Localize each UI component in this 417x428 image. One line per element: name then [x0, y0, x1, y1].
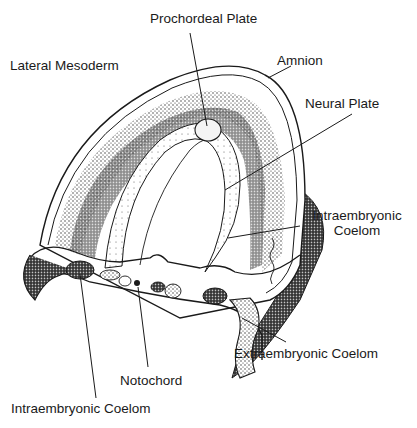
- somite-right-2: [165, 284, 181, 298]
- somite-left-2: [119, 276, 131, 286]
- label-intraembryonic-coelom-bottom: Intraembryonic Coelom: [11, 401, 151, 416]
- somite-right-1: [151, 282, 165, 292]
- label-amnion: Amnion: [277, 53, 323, 68]
- label-extraembryonic-coelom: Extraembryonic Coelom: [234, 346, 378, 361]
- label-prochordeal-plate: Prochordeal Plate: [150, 11, 257, 26]
- leader-intraembryonic-coelom-bottom: [80, 274, 96, 398]
- label-intraembryonic-coelom-right: Intraembryonic Coelom: [307, 208, 407, 238]
- prochordeal-plate: [195, 119, 221, 141]
- label-intraembryonic-coelom-right-line2: Coelom: [307, 223, 407, 238]
- label-intraembryonic-coelom-right-line1: Intraembryonic: [307, 208, 407, 223]
- right-coelom-cavity: [203, 288, 227, 304]
- label-lateral-mesoderm: Lateral Mesoderm: [10, 58, 119, 73]
- label-neural-plate: Neural Plate: [305, 96, 379, 111]
- notochord: [134, 280, 140, 286]
- label-notochord: Notochord: [120, 373, 182, 388]
- somite-left-1: [100, 270, 120, 280]
